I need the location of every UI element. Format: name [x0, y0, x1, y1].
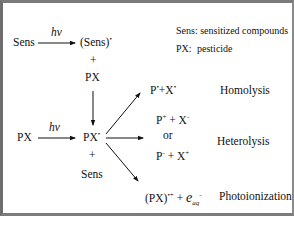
- px-excited: PX•: [83, 132, 100, 144]
- charge: +: [162, 113, 166, 121]
- heterolysis-label: Heterolysis: [217, 136, 269, 148]
- arrow-to-photoionization: [106, 143, 138, 181]
- radical-dot: •: [156, 83, 158, 91]
- px-partner: PX: [85, 72, 100, 84]
- radical-dot: •: [109, 35, 111, 43]
- charge: +: [185, 149, 189, 157]
- sens-partner: Sens: [81, 169, 103, 181]
- heterolysis-or: or: [163, 130, 173, 142]
- charge: -: [162, 149, 164, 157]
- arrow-to-homolysis: [106, 93, 140, 134]
- photoionization-label: Photoionization: [219, 191, 292, 203]
- sens-reactant: Sens: [13, 37, 35, 49]
- homolysis-products: P•+X•: [150, 85, 176, 97]
- radical-dot: •: [174, 83, 176, 91]
- px-radical-cation: (PX): [145, 192, 167, 204]
- photoionization-products: (PX)•+ + eaq-: [145, 191, 202, 205]
- radical-dot: •: [98, 130, 100, 138]
- sens-excited-base: (Sens): [80, 36, 109, 48]
- plus: +: [165, 150, 177, 162]
- x-fragment: X: [179, 114, 187, 126]
- px-reactant: PX: [17, 132, 32, 144]
- px-excited-base: PX: [83, 131, 98, 143]
- heterolysis-option-2: P- + X+: [156, 151, 189, 163]
- legend-px-key: PX:: [176, 44, 192, 54]
- electron-charge: -: [199, 191, 201, 199]
- homolysis-label: Homolysis: [220, 85, 270, 97]
- plus: +: [174, 192, 186, 204]
- legend-px-value: pesticide: [197, 44, 233, 54]
- light-hv-top: hv: [51, 27, 62, 39]
- charge: -: [187, 113, 189, 121]
- aq-subscript: aq: [192, 199, 199, 207]
- x-fragment: X: [165, 84, 173, 96]
- light-hv-middle: hv: [49, 122, 60, 134]
- plus-middle: +: [89, 150, 96, 162]
- plus-top: +: [90, 55, 97, 67]
- plus: +: [166, 114, 178, 126]
- radical-cation-charge: •+: [167, 191, 173, 199]
- heterolysis-option-1: P+ + X-: [156, 115, 189, 127]
- legend-sens: Sens: sensitized compounds: [176, 26, 288, 36]
- sens-excited: (Sens)•: [80, 37, 112, 49]
